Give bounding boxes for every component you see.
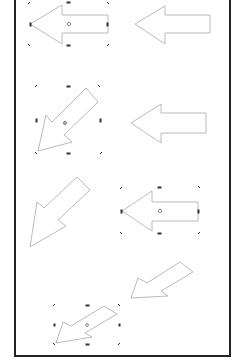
diagram-canvas (0, 0, 238, 363)
arrows-drawing (0, 0, 238, 363)
arrow-row4-right (131, 262, 193, 298)
arrow-row3-left (30, 177, 90, 247)
arrow-row1-left (30, 5, 108, 44)
arrow-row3-right (122, 191, 198, 231)
arrow-row2-left (38, 88, 98, 151)
selection-handles (28, 2, 200, 345)
arrow-row4-left (56, 306, 117, 343)
arrow-row2-right (131, 104, 206, 143)
arrow-row1-right (135, 6, 210, 44)
